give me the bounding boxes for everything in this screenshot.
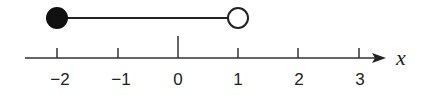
tick-label: −1 [111,70,130,89]
closed-endpoint-icon [47,8,67,28]
number-line-diagram: −2 −1 0 1 2 3 x [0,0,422,95]
tick-label: 3 [355,70,364,89]
axis-variable-label: x [395,45,406,70]
tick-label: −2 [50,70,69,89]
tick-label: 1 [233,70,242,89]
tick-label: 2 [294,70,303,89]
open-endpoint-icon [228,8,248,28]
tick-label: 0 [173,70,182,89]
